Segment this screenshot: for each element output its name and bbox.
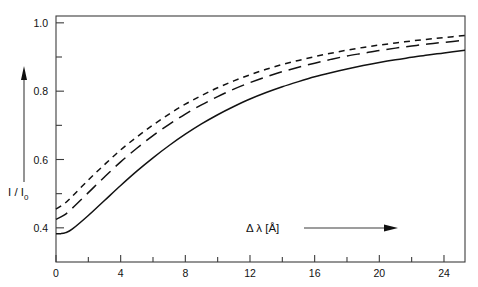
y-tick-label: 0.4 [33, 222, 48, 234]
x-tick-label: 8 [182, 267, 188, 279]
chart-background [0, 0, 478, 287]
y-tick-label: 1.0 [33, 17, 48, 29]
x-tick-label: 20 [373, 267, 385, 279]
x-tick-label: 4 [118, 267, 124, 279]
y-tick-label: 0.6 [33, 154, 48, 166]
y-tick-label: 0.8 [33, 85, 48, 97]
x-tick-label: 16 [309, 267, 321, 279]
x-tick-label: 24 [438, 267, 450, 279]
x-axis-title: Δ λ [Å] [246, 222, 279, 234]
x-tick-label: 12 [244, 267, 256, 279]
x-tick-label: 0 [53, 267, 59, 279]
chart-figure: 048121620240.40.60.81.0I / I0Δ λ [Å] [0, 0, 478, 287]
